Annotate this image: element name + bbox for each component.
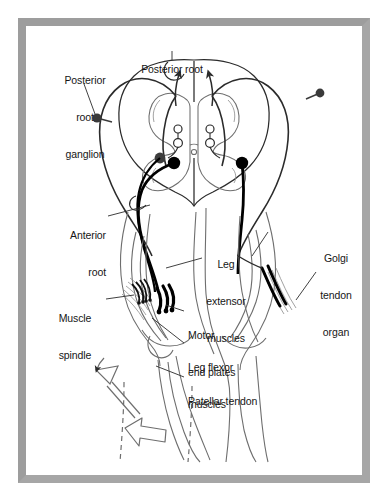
label-posterior-root-ganglion-line-2: root <box>48 111 122 123</box>
motor-end-plate-2 <box>163 286 168 310</box>
label-muscle-spindle-line-2: spindle <box>46 349 104 361</box>
interneuron-right-upper <box>206 125 214 133</box>
motor-end-plate-1 <box>157 288 161 311</box>
right-sensory-neuron <box>212 79 288 256</box>
label-muscle-spindle-line-1: Muscle <box>46 312 104 324</box>
label-anterior-root-line-1: Anterior <box>42 229 106 241</box>
label-patellar-tendon-line-1: Patellar tendon <box>188 395 288 407</box>
interneuron-right-lower <box>206 139 215 148</box>
hammer-handle-2 <box>107 386 135 418</box>
hammer-handle <box>112 382 140 414</box>
label-posterior-root: Posterior root <box>124 39 220 100</box>
label-golgi-tendon-organ: Golgi tendon organ <box>312 228 360 362</box>
leader-motor-end-plates <box>166 305 184 311</box>
label-anterior-root-line-2: root <box>42 266 106 278</box>
label-golgi-tendon-organ-line-2: tendon <box>312 289 360 301</box>
interneuron-left-lower <box>174 139 183 148</box>
gray-commissure <box>190 144 198 145</box>
leg-swing-dashed-path <box>120 382 192 462</box>
label-posterior-root-line-1: Posterior root <box>124 63 220 75</box>
label-golgi-tendon-organ-line-1: Golgi <box>312 252 360 264</box>
left-thigh-medial-contour <box>146 214 168 340</box>
muscle-spindle-sensory-endings <box>132 279 150 302</box>
interneuron-left-upper <box>174 125 182 133</box>
label-posterior-root-ganglion: Posterior root ganglion <box>48 50 122 184</box>
figure-root: Posterior root ganglion Posterior root A… <box>0 0 388 501</box>
central-canal <box>191 149 196 154</box>
right-golgi-afferent-terminal <box>306 89 324 99</box>
leg-motion-arrow <box>125 418 166 446</box>
label-muscle-spindle: Muscle spindle <box>46 288 104 386</box>
leader-muscle-spindle <box>106 295 134 299</box>
motor-end-plate-3 <box>169 285 174 309</box>
label-patellar-tendon: Patellar tendon <box>188 371 288 432</box>
label-leg-extensor-muscles-line-1: Leg <box>196 258 256 270</box>
leader-anterior-root <box>108 205 150 216</box>
muscle-spindle-group <box>122 278 152 320</box>
label-posterior-root-ganglion-line-3: ganglion <box>48 148 122 160</box>
label-posterior-root-ganglion-line-1: Posterior <box>48 74 122 86</box>
label-golgi-tendon-organ-line-3: organ <box>312 326 360 338</box>
right-dorsal-root-loop <box>212 79 288 256</box>
